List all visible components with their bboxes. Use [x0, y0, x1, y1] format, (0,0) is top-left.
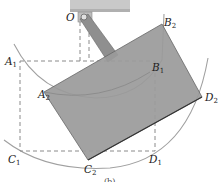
label-D2: D2: [204, 91, 218, 105]
pivot-pin-icon: [81, 14, 87, 20]
label-A1: A1: [4, 55, 17, 69]
label-C1: C1: [8, 153, 21, 167]
label-O: O: [66, 11, 75, 23]
rotated-plate: [44, 24, 202, 160]
figure-caption: (b): [104, 177, 115, 182]
label-B2: B2: [163, 16, 176, 30]
ceiling-support: [70, 0, 130, 22]
plate-rotation-diagram: O A1 B1 C1 D1 A2 B2 C2 D2 (b): [0, 0, 219, 182]
label-C2: C2: [84, 163, 97, 177]
label-D1: D1: [148, 153, 162, 167]
